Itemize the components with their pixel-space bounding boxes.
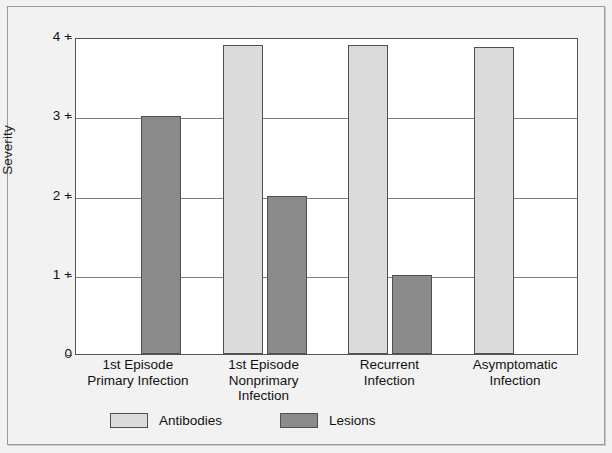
x-axis-category-labels: 1st EpisodePrimary Infection1st EpisodeN… (75, 357, 578, 417)
y-tick-label-3: 3 + (38, 108, 72, 123)
x-axis-label-line: Asymptomatic (452, 357, 578, 373)
y-tick-mark-4 (67, 38, 72, 39)
y-axis-ticks: 4 +3 +2 +1 +0 (30, 0, 72, 453)
y-tick-label-0: 0 (38, 346, 72, 361)
y-axis-title: Severity (0, 90, 15, 210)
figure-root: Severity 4 +3 +2 +1 +0 1st EpisodePrimar… (0, 0, 612, 453)
legend-swatch-lesions (280, 413, 318, 428)
bar-lesions-group-2 (267, 196, 307, 355)
x-axis-label-line: 1st Episode (75, 357, 201, 373)
bar-antibodies-group-4 (474, 47, 514, 354)
chart-legend: AntibodiesLesions (110, 413, 376, 428)
legend-label-lesions: Lesions (329, 413, 376, 428)
y-tick-label-4: 4 + (38, 29, 72, 44)
x-axis-label-2: 1st EpisodeNonprimaryInfection (201, 357, 327, 404)
legend-entry-lesions: Lesions (280, 413, 376, 428)
plot-area (75, 38, 578, 355)
x-axis-label-3: RecurrentInfection (327, 357, 453, 388)
bar-lesions-group-1 (141, 116, 181, 354)
x-axis-label-1: 1st EpisodePrimary Infection (75, 357, 201, 388)
y-tick-label-2: 2 + (38, 188, 72, 203)
legend-swatch-antibodies (110, 413, 148, 428)
x-axis-label-line: Recurrent (327, 357, 453, 373)
y-tick-label-1: 1 + (38, 267, 72, 282)
x-axis-label-4: AsymptomaticInfection (452, 357, 578, 388)
x-axis-label-line: 1st Episode (201, 357, 327, 373)
y-tick-mark-3 (67, 117, 72, 118)
legend-entry-antibodies: Antibodies (110, 413, 222, 428)
y-tick-mark-1 (67, 276, 72, 277)
bar-antibodies-group-2 (223, 45, 263, 354)
x-axis-label-line: Infection (327, 373, 453, 389)
bar-lesions-group-3 (392, 275, 432, 354)
x-axis-label-line: Nonprimary (201, 373, 327, 389)
x-axis-label-line: Primary Infection (75, 373, 201, 389)
x-axis-label-line: Infection (452, 373, 578, 389)
y-tick-mark-0 (67, 355, 72, 356)
y-tick-mark-2 (67, 197, 72, 198)
legend-label-antibodies: Antibodies (159, 413, 222, 428)
bar-antibodies-group-3 (348, 45, 388, 354)
x-axis-label-line: Infection (201, 388, 327, 404)
